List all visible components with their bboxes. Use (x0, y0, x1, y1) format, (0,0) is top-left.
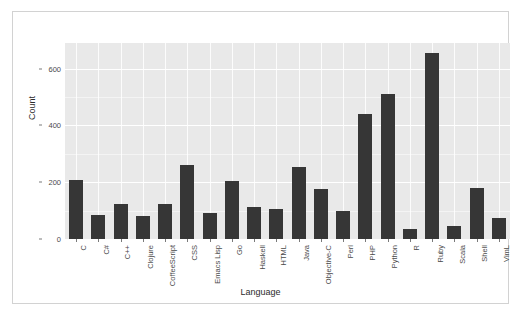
x-tick-mark (299, 239, 300, 242)
bar (158, 204, 172, 240)
x-tick-mark (121, 239, 122, 242)
x-tick-label: C++ (124, 245, 133, 259)
x-tick-mark (499, 239, 500, 242)
bar (91, 215, 105, 239)
cropped-header-text (0, 0, 521, 9)
x-tick-label: R (413, 245, 422, 250)
x-tick-mark (98, 239, 99, 242)
gridline-minor (65, 211, 510, 212)
x-tick-label: Python (391, 245, 400, 268)
gridline-major (65, 125, 510, 126)
x-tick-mark (477, 239, 478, 242)
x-tick-mark (454, 239, 455, 242)
x-tick-label: Java (302, 245, 311, 261)
x-tick-label: VimL (502, 245, 511, 262)
x-tick-mark (388, 239, 389, 242)
x-tick-mark (276, 239, 277, 242)
x-axis-title: Language (0, 287, 521, 297)
x-tick-mark (365, 239, 366, 242)
gridline-minor (65, 154, 510, 155)
gridline-vertical (454, 43, 455, 239)
y-tick-mark (39, 125, 42, 126)
x-tick-mark (321, 239, 322, 242)
x-tick-label: Emacs Lisp (213, 245, 222, 284)
x-tick-label: CoffeeScript (168, 245, 177, 286)
bar (247, 207, 261, 239)
gridline-vertical (98, 43, 99, 239)
x-tick-label: Clojure (146, 245, 155, 269)
bar (69, 180, 83, 239)
x-tick-mark (165, 239, 166, 242)
x-tick-label: Perl (346, 245, 355, 258)
plot-panel (65, 43, 510, 239)
bar (180, 165, 194, 239)
x-tick-label: PHP (368, 245, 377, 260)
y-axis-title: Count (27, 106, 37, 120)
y-tick-mark (39, 68, 42, 69)
x-tick-mark (254, 239, 255, 242)
y-axis: 0200400600 (37, 43, 61, 239)
x-tick-label: CSS (190, 245, 199, 260)
gridline-vertical (410, 43, 411, 239)
y-tick-mark (39, 239, 42, 240)
bar (470, 188, 484, 239)
x-tick-mark (432, 239, 433, 242)
gridline-vertical (343, 43, 344, 239)
bar (492, 218, 506, 239)
bar (381, 94, 395, 239)
bar (225, 181, 239, 239)
bar (314, 189, 328, 239)
gridline-vertical (143, 43, 144, 239)
x-tick-label: Scala (457, 245, 466, 264)
gridline-major (65, 69, 510, 70)
x-tick-label: HTML (279, 245, 288, 265)
y-tick-mark (39, 182, 42, 183)
x-tick-label: Haskell (257, 245, 266, 270)
bar (447, 226, 461, 239)
gridline-vertical (499, 43, 500, 239)
bar (358, 114, 372, 239)
x-tick-label: C# (101, 245, 110, 255)
gridline-major (65, 182, 510, 183)
bar (336, 211, 350, 239)
bar (292, 167, 306, 239)
x-tick-label: Objective-C (324, 245, 333, 284)
x-tick-mark (187, 239, 188, 242)
chart-figure: 0200400600 Count CC#C++ClojureCoffeeScri… (12, 11, 509, 304)
x-tick-mark (76, 239, 77, 242)
x-tick-mark (210, 239, 211, 242)
bar (425, 53, 439, 239)
x-tick-label: Shell (480, 245, 489, 262)
x-tick-mark (410, 239, 411, 242)
bar (269, 209, 283, 239)
bar (114, 204, 128, 239)
x-tick-mark (232, 239, 233, 242)
bar (136, 216, 150, 239)
gridline-vertical (210, 43, 211, 239)
x-tick-mark (143, 239, 144, 242)
x-tick-label: Ruby (435, 245, 444, 263)
bar (203, 213, 217, 239)
gridline-minor (65, 97, 510, 98)
bar (403, 229, 417, 239)
x-tick-mark (343, 239, 344, 242)
x-tick-label: Go (235, 245, 244, 255)
x-tick-label: C (79, 245, 88, 250)
